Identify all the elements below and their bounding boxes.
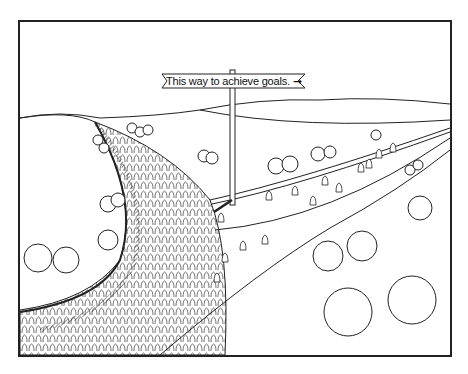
arrow-right-icon: ➞ [293, 75, 302, 87]
cartoon-illustration [0, 0, 468, 374]
signpost-label: This way to achieve goals. ➞ [166, 75, 301, 88]
sign-text: This way to achieve goals. [166, 75, 290, 87]
